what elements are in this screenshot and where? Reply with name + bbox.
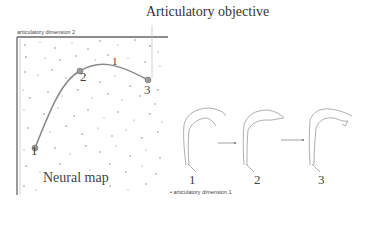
neural-map-label: Neural map [43,170,109,186]
shape-label-2: 2 [254,172,261,188]
trajectory-curve [35,64,148,148]
vocal-tract-shape-1 [184,108,226,172]
point-label-1: 1 [31,143,38,159]
curve-label: 1 [112,55,118,67]
neuron-dots [22,39,162,190]
axis-x-label: • articulatory dimension 1 [170,189,232,195]
shape-label-3: 3 [318,172,325,188]
shape-label-1: 1 [189,172,196,188]
axis-x-label-text: articulatory dimension 1 [173,189,231,195]
point-label-2: 2 [80,69,87,85]
vocal-tract-shape-3 [309,109,352,172]
vocal-tract-shape-2 [243,110,284,172]
arrow-1-to-2 [218,142,236,144]
point-label-3: 3 [144,82,151,98]
arrow-2-to-3 [281,139,304,141]
